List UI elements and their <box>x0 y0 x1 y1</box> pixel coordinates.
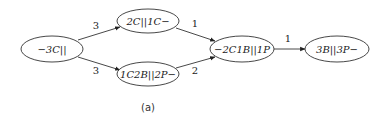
node-label: −2C1B||1P <box>214 44 270 56</box>
edge-a-b: 3 <box>78 20 120 40</box>
node-a: −3C|| <box>21 36 83 62</box>
edge-c-d: 2 <box>176 57 215 76</box>
node-label: 3B||3P− <box>316 44 358 56</box>
node-label: 1C2B||2P− <box>120 69 176 81</box>
graph-canvas: 3 3 1 2 1 −3C|| 2C||1C− 1C2B||2P− −2C1B|… <box>0 0 387 135</box>
node-e: 3B||3P− <box>305 36 369 62</box>
node-c: 1C2B||2P− <box>117 62 179 86</box>
edge-label: 1 <box>285 33 291 44</box>
edge-b-d: 1 <box>176 18 215 41</box>
node-label: 2C||1C− <box>125 16 169 28</box>
figure-caption: (a) <box>141 102 155 113</box>
edge-label: 3 <box>93 20 99 31</box>
edge-d-e: 1 <box>274 33 305 49</box>
edge-a-c: 3 <box>78 57 120 76</box>
edge-label: 1 <box>192 18 198 29</box>
node-b: 2C||1C− <box>117 9 179 33</box>
edge-label: 3 <box>93 65 99 76</box>
node-label: −3C|| <box>37 44 66 56</box>
edge-label: 2 <box>192 65 198 76</box>
node-d: −2C1B||1P <box>210 36 274 62</box>
